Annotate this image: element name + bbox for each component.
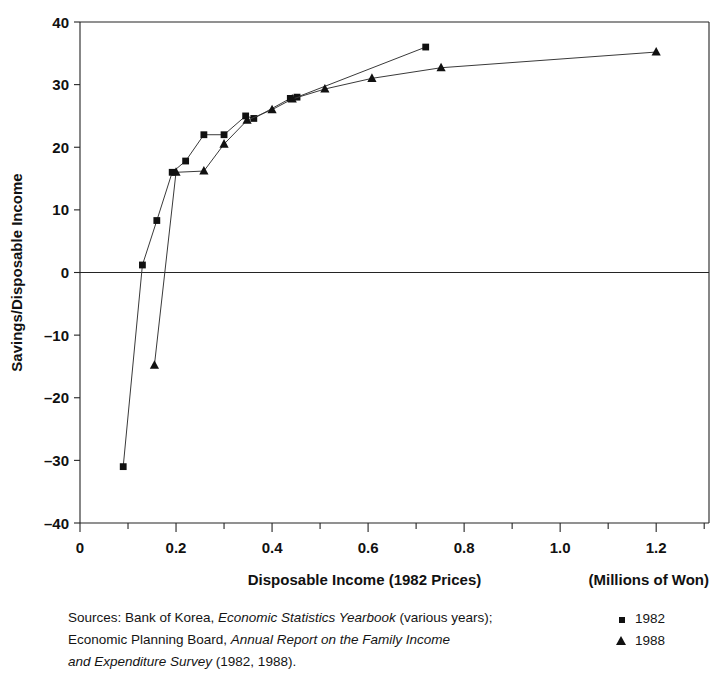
- source-note-line-1: Sources: Bank of Korea, Economic Statist…: [68, 607, 568, 629]
- data-point-1982: [139, 262, 146, 269]
- data-point-1982: [221, 131, 228, 138]
- source-line3-suffix: (1982, 1988).: [212, 654, 296, 669]
- legend-item-1988: 1988: [612, 630, 722, 652]
- chart-legend: 1982 1988: [612, 608, 722, 652]
- data-point-1988: [150, 360, 159, 369]
- legend-square-marker-icon: [612, 612, 628, 626]
- axis-titles: Disposable Income (1982 Prices)(Millions…: [8, 173, 709, 588]
- source-line1-title: Economic Statistics Yearbook: [218, 610, 396, 625]
- svg-text:–40: –40: [44, 515, 69, 532]
- legend-triangle-marker-icon: [612, 634, 628, 648]
- svg-text:0: 0: [61, 264, 69, 281]
- source-note: Sources: Bank of Korea, Economic Statist…: [68, 607, 568, 673]
- svg-text:0: 0: [76, 539, 84, 556]
- legend-item-1982: 1982: [612, 608, 722, 630]
- source-line2-prefix: Economic Planning Board,: [68, 632, 231, 647]
- svg-text:1.2: 1.2: [646, 539, 667, 556]
- axes: [80, 22, 709, 523]
- source-line1-suffix: (various years);: [396, 610, 493, 625]
- svg-text:–30: –30: [44, 452, 69, 469]
- svg-text:40: 40: [52, 14, 69, 31]
- tick-labels: –40–30–20–1001020304000.20.40.60.81.01.2: [44, 14, 667, 557]
- svg-text:0.8: 0.8: [454, 539, 475, 556]
- chart-plot: –40–30–20–1001020304000.20.40.60.81.01.2…: [0, 0, 726, 683]
- data-point-1982: [120, 463, 127, 470]
- svg-text:0.6: 0.6: [358, 539, 379, 556]
- svg-text:20: 20: [52, 139, 69, 156]
- svg-text:0.4: 0.4: [262, 539, 284, 556]
- data-point-1982: [422, 44, 429, 51]
- svg-text:10: 10: [52, 201, 69, 218]
- data-point-1982: [200, 131, 207, 138]
- tick-marks: [74, 22, 704, 532]
- data-point-1988: [652, 47, 661, 56]
- legend-label-1982: 1982: [635, 608, 665, 630]
- source-note-line-3: and Expenditure Survey (1982, 1988).: [68, 651, 568, 673]
- x-axis-title: Disposable Income (1982 Prices): [248, 571, 481, 588]
- data-point-1982: [153, 217, 160, 224]
- figure: –40–30–20–1001020304000.20.40.60.81.01.2…: [0, 0, 726, 683]
- source-line1-prefix: Sources: Bank of Korea,: [68, 610, 218, 625]
- data-point-1988: [267, 105, 276, 114]
- y-axis-title: Savings/Disposable Income: [8, 173, 25, 371]
- svg-text:–20: –20: [44, 389, 69, 406]
- x-axis-unit: (Millions of Won): [588, 571, 709, 588]
- series-line-1988: [154, 52, 656, 365]
- svg-text:0.2: 0.2: [166, 539, 187, 556]
- source-line2-title: Annual Report on the Family Income: [231, 632, 450, 647]
- source-note-line-2: Economic Planning Board, Annual Report o…: [68, 629, 568, 651]
- data-point-1982: [182, 158, 189, 165]
- legend-label-1988: 1988: [635, 630, 665, 652]
- svg-text:30: 30: [52, 76, 69, 93]
- source-line3-title: and Expenditure Survey: [68, 654, 212, 669]
- data-series: [120, 44, 661, 470]
- data-point-1988: [436, 63, 445, 72]
- svg-text:1.0: 1.0: [550, 539, 571, 556]
- svg-text:–10: –10: [44, 327, 69, 344]
